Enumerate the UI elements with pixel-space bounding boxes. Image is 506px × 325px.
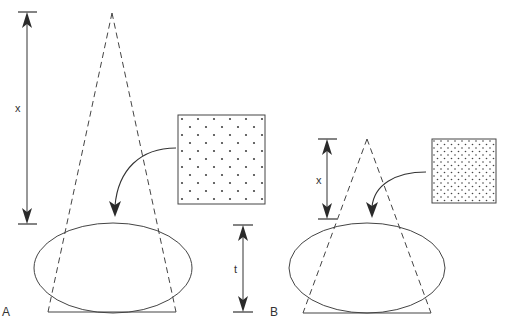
thickness-label-t: t [234, 263, 237, 275]
diagram-canvas: x t A [0, 0, 506, 325]
distance-label-x-a: x [15, 102, 21, 114]
panel-b: x B [270, 139, 496, 319]
panel-a: x t A [2, 12, 265, 319]
dot-grid-square-b [432, 139, 496, 203]
distance-label-x-b: x [316, 174, 322, 186]
beam-cone-a [48, 13, 176, 312]
curved-arrow-a [109, 148, 176, 217]
panel-label-a: A [2, 305, 10, 319]
body-ellipse-b [289, 223, 445, 313]
curved-arrow-b [366, 172, 426, 218]
dot-grid-square-a [178, 115, 265, 204]
beam-cone-b [303, 139, 431, 313]
distance-arrow-x-a [18, 12, 37, 224]
panel-label-b: B [270, 305, 278, 319]
